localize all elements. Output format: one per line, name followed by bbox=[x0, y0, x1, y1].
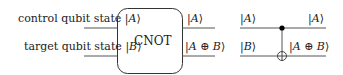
control-dot-icon bbox=[279, 25, 284, 30]
circuit-target-input-symbol: B bbox=[244, 40, 252, 53]
circuit-control-input-ket: |A⟩ bbox=[240, 12, 256, 25]
circuit-target-input-ket: |B⟩ bbox=[240, 40, 256, 53]
target-output-ket: |A ⊕ B⟩ bbox=[185, 40, 225, 53]
target-input-label: target qubit state |B⟩ bbox=[24, 40, 141, 53]
control-output-ket-symbol: A bbox=[191, 12, 199, 25]
circuit-control-input-symbol: A bbox=[244, 12, 252, 25]
control-output-ket: |A⟩ bbox=[187, 12, 203, 25]
control-input-label: control qubit state |A⟩ bbox=[18, 12, 141, 25]
circuit-control-output-ket: |A⟩ bbox=[308, 12, 324, 25]
circuit-target-output-symbol: A ⊕ B bbox=[293, 40, 325, 53]
target-input-text: target qubit state bbox=[24, 40, 122, 53]
control-input-ket: |A⟩ bbox=[125, 12, 141, 25]
control-input-ket-symbol: A bbox=[129, 12, 137, 25]
control-input-text: control qubit state bbox=[18, 12, 121, 25]
cnot-gate-label: CNOT bbox=[134, 34, 172, 48]
target-output-ket-symbol: A ⊕ B bbox=[189, 40, 221, 53]
circuit-target-output-ket: |A ⊕ B⟩ bbox=[289, 40, 329, 53]
circuit-control-output-symbol: A bbox=[312, 12, 320, 25]
